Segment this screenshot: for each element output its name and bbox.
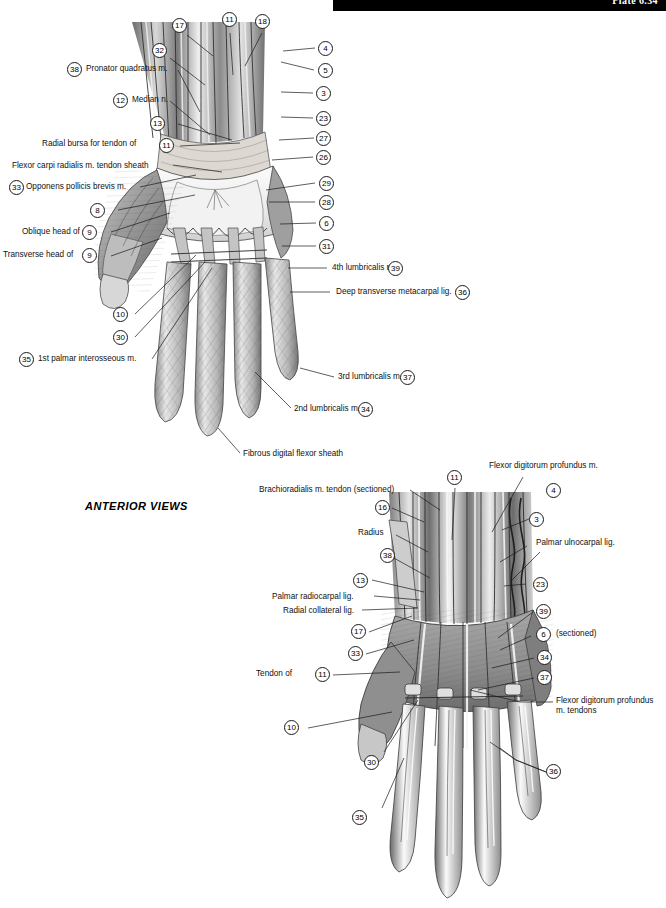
label-radial-collateral-lig: Radial collateral lig. [283,606,354,616]
ref-number-9-transverse[interactable]: 9 [82,248,97,263]
ref-number-6-bottom[interactable]: 6 [536,627,551,642]
label-brachioradialis-tendon: Brachioradialis m. tendon (sectioned) [259,485,394,495]
label-deep-transverse-metacarpal-lig: Deep transverse metacarpal lig. [336,287,452,297]
ref-number-13-bottom[interactable]: 13 [353,573,368,588]
plate-number-label: Plate 6.34 [612,0,658,6]
page-header-banner: Plate 6.34 [333,0,666,11]
ref-number-30[interactable]: 30 [113,330,128,345]
label-tendon-of: Tendon of [256,669,292,679]
ref-number-37[interactable]: 37 [400,370,415,385]
ref-number-8[interactable]: 8 [90,203,105,218]
label-palmar-radiocarpal-lig: Palmar radiocarpal lig. [272,592,353,602]
label-oblique-head: Oblique head of [22,227,80,237]
label-radial-bursa: Radial bursa for tendon of [42,139,136,149]
ref-number-32[interactable]: 32 [152,43,167,58]
ref-number-3-bottom[interactable]: 3 [529,512,544,527]
ref-number-33-bottom[interactable]: 33 [348,646,363,661]
ref-number-12[interactable]: 12 [113,93,128,108]
label-palmar-ulnocarpal-lig: Palmar ulnocarpal lig. [536,538,615,548]
ref-number-36-bottom[interactable]: 36 [546,764,561,779]
ref-number-35[interactable]: 35 [19,352,34,367]
ref-number-31[interactable]: 31 [319,239,334,254]
label-opponens-pollicis-brevis: Opponens pollicis brevis m. [26,182,126,192]
label-3rd-lumbricalis: 3rd lumbricalis m. [338,372,402,382]
ref-number-34-bottom[interactable]: 34 [537,650,552,665]
ref-number-18[interactable]: 18 [255,14,270,29]
ref-number-4-bottom[interactable]: 4 [546,483,561,498]
ref-number-38[interactable]: 38 [67,62,82,77]
label-pronator-quadratus: Pronator quadratus m. [86,64,167,74]
ref-number-6[interactable]: 6 [319,216,334,231]
ref-number-16[interactable]: 16 [375,500,390,515]
ref-number-11-tendon-of[interactable]: 11 [315,667,330,682]
ref-number-37-bottom[interactable]: 37 [537,670,552,685]
ref-number-3[interactable]: 3 [316,86,331,101]
label-fibrous-digital-flexor-sheath: Fibrous digital flexor sheath [243,449,343,459]
label-2nd-lumbricalis: 2nd lumbricalis m. [294,404,360,414]
ref-number-5[interactable]: 5 [318,63,333,78]
ref-number-27[interactable]: 27 [316,131,331,146]
ref-number-4[interactable]: 4 [318,41,333,56]
ref-number-38-bottom[interactable]: 38 [380,548,395,563]
ref-number-33[interactable]: 33 [9,180,24,195]
ref-number-23-bottom[interactable]: 23 [533,577,548,592]
label-flexor-digitorum-profundus-m: Flexor digitorum profundus m. [489,461,598,471]
ref-number-34[interactable]: 34 [358,402,373,417]
ref-number-17-bottom[interactable]: 17 [351,624,366,639]
ref-number-17[interactable]: 17 [172,18,187,33]
ref-number-39-bottom[interactable]: 39 [536,604,551,619]
ref-number-11-bottom-top[interactable]: 11 [447,470,462,485]
anterior-views-caption: ANTERIOR VIEWS [85,500,188,512]
label-flexor-carpi-radialis-sheath: Flexor carpi radialis m. tendon sheath [12,161,149,171]
ref-number-10-bottom[interactable]: 10 [284,720,299,735]
ref-number-39[interactable]: 39 [388,261,403,276]
ref-number-28[interactable]: 28 [319,195,334,210]
label-1st-palmar-interosseous: 1st palmar interosseous m. [38,354,136,364]
ref-number-26[interactable]: 26 [316,150,331,165]
ref-number-29[interactable]: 29 [319,176,334,191]
label-4th-lumbricalis: 4th lumbricalis m. [332,263,396,273]
ref-number-9-oblique[interactable]: 9 [82,225,97,240]
ref-number-10[interactable]: 10 [113,307,128,322]
ref-number-13[interactable]: 13 [150,116,165,131]
label-radius: Radius [358,528,384,538]
top-figure-illustration [95,22,345,462]
ref-number-11-top[interactable]: 11 [222,12,237,27]
label-flexor-digitorum-profundus-tendons: Flexor digitorum profundus m. tendons [556,696,662,716]
ref-number-23[interactable]: 23 [316,111,331,126]
label-sectioned: (sectioned) [556,629,597,639]
ref-number-35-bottom[interactable]: 35 [352,810,367,825]
ref-number-11-bursa[interactable]: 11 [159,138,174,153]
label-transverse-head: Transverse head of [3,250,73,260]
ref-number-36[interactable]: 36 [455,285,470,300]
ref-number-30-bottom[interactable]: 30 [364,755,379,770]
label-median-nerve: Median n. [132,95,168,105]
